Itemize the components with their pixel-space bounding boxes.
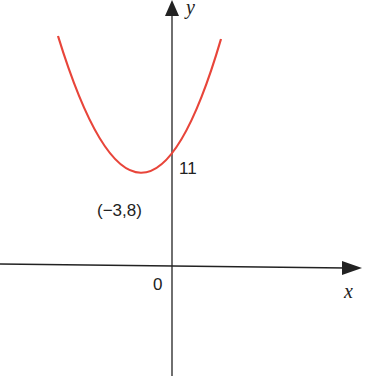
- y-intercept-label: 11: [179, 159, 197, 178]
- parabola-curve: [58, 36, 221, 173]
- y-axis-label: y: [184, 0, 195, 19]
- x-axis-arrow-icon: [342, 261, 362, 275]
- x-axis: [0, 264, 346, 268]
- vertex-label: (−3,8): [97, 201, 142, 220]
- y-axis-arrow-icon: [165, 0, 179, 16]
- parabola-graph: y x 0 11 (−3,8): [0, 0, 368, 376]
- origin-label: 0: [153, 275, 162, 294]
- x-axis-label: x: [343, 280, 353, 302]
